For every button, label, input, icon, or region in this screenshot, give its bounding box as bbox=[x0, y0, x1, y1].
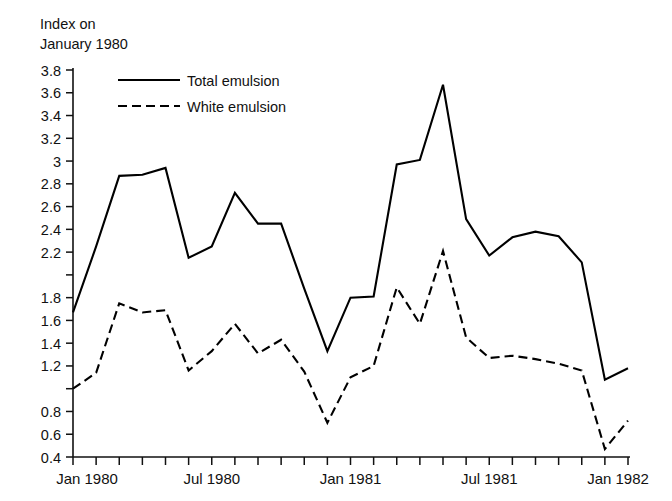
y-tick-label: 0.6 bbox=[41, 427, 61, 443]
y-tick-label: 0.8 bbox=[41, 404, 61, 420]
chart-container: Index on January 1980 3.83.63.43.232.82.… bbox=[0, 0, 672, 501]
y-tick-label: 1.8 bbox=[41, 290, 61, 306]
x-tick-label: Jul 1980 bbox=[183, 470, 240, 487]
x-tick-label: Jan 1980 bbox=[56, 470, 118, 487]
chart-legend: Total emulsionWhite emulsion bbox=[118, 73, 286, 115]
y-tick-label: 3 bbox=[53, 154, 61, 170]
legend-label-2: White emulsion bbox=[187, 99, 286, 115]
series-line-1 bbox=[73, 85, 628, 380]
y-tick-label: 1.6 bbox=[41, 313, 61, 329]
y-tick-label: 3.2 bbox=[41, 131, 61, 147]
y-tick-label: 3.4 bbox=[41, 108, 61, 124]
y-tick-label: 2.2 bbox=[41, 245, 61, 261]
x-tick-label: Jan 1981 bbox=[320, 470, 382, 487]
y-tick-label: 2.4 bbox=[41, 222, 61, 238]
y-tick-label: 2.6 bbox=[41, 199, 61, 215]
x-tick-label: Jan 1982 bbox=[587, 470, 649, 487]
y-tick-label: 3.6 bbox=[41, 85, 61, 101]
series-line-2 bbox=[73, 251, 628, 449]
y-axis-ticks: 3.83.63.43.232.82.62.42.21.81.61.41.20.8… bbox=[41, 63, 73, 466]
chart-plot-area: 3.83.63.43.232.82.62.42.21.81.61.41.20.8… bbox=[0, 0, 672, 501]
y-tick-label: 2.8 bbox=[41, 176, 61, 192]
y-tick-label: 0.4 bbox=[41, 450, 61, 466]
data-series-group bbox=[73, 85, 628, 449]
legend-label-1: Total emulsion bbox=[187, 73, 280, 89]
y-tick-label: 3.8 bbox=[41, 63, 61, 79]
x-axis-ticks: Jan 1980Jul 1980Jan 1981Jul 1981Jan 1982 bbox=[56, 457, 649, 487]
y-tick-label: 1.2 bbox=[41, 358, 61, 374]
y-tick-label: 1.4 bbox=[41, 336, 61, 352]
x-tick-label: Jul 1981 bbox=[461, 470, 518, 487]
